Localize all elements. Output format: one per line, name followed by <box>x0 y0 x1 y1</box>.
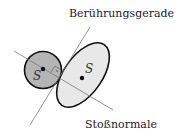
center-dot-large <box>80 76 84 80</box>
collision-diagram: Berührungsgerade Stoßnormale S S <box>0 0 182 140</box>
center-label-small: S <box>33 69 41 83</box>
center-label-large: S <box>85 62 93 76</box>
center-dot-small <box>41 67 45 71</box>
normal-label: Stoßnormale <box>85 118 157 131</box>
tangent-label: Berührungsgerade <box>69 7 174 20</box>
